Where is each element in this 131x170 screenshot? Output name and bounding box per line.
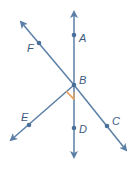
label-B: B — [79, 74, 86, 86]
label-E: E — [21, 111, 29, 123]
point-A — [72, 33, 77, 38]
point-B — [72, 83, 77, 88]
point-D — [72, 126, 77, 131]
label-D: D — [79, 123, 87, 135]
point-E — [27, 123, 32, 128]
point-F — [37, 41, 42, 46]
point-C — [105, 124, 110, 129]
label-F: F — [27, 42, 35, 54]
right-angle-marker-side — [67, 92, 74, 100]
label-C: C — [112, 115, 120, 127]
geometry-diagram: A B C D E F — [0, 0, 131, 170]
diagram-canvas: A B C D E F — [0, 0, 131, 170]
label-A: A — [78, 32, 86, 44]
